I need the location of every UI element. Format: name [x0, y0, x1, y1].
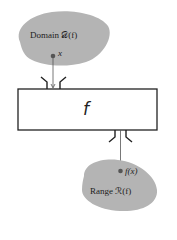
function-label: f — [83, 99, 89, 119]
range-point-label: f(x) — [125, 166, 138, 176]
range-label: Range ℛ(f) — [90, 186, 131, 196]
input-funnel — [41, 77, 47, 89]
domain-label: Domain 𝒟(f) — [30, 30, 77, 41]
domain-label-text: Domain — [30, 30, 59, 40]
domain-point — [51, 54, 56, 59]
range-symbol: ℛ(f) — [115, 186, 131, 196]
range-point — [118, 169, 123, 174]
domain-symbol: 𝒟(f) — [61, 30, 77, 40]
range-label-text: Range — [90, 186, 113, 196]
output-funnel — [109, 130, 115, 142]
domain-point-label: x — [58, 48, 62, 58]
